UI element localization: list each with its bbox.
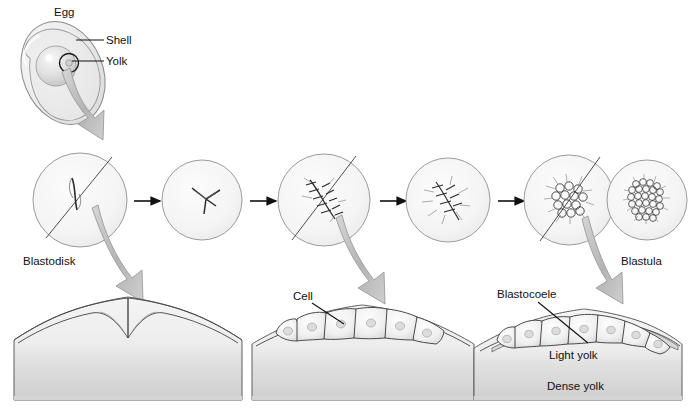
blastodisk-label: Blastodisk xyxy=(23,255,75,267)
stage-circle-5 xyxy=(524,155,614,245)
section-panel-1 xyxy=(14,297,242,400)
stage-circle-1 xyxy=(33,153,127,247)
stage-circle-3 xyxy=(278,154,370,246)
cell-label: Cell xyxy=(293,290,313,302)
section-panel-2 xyxy=(252,303,474,400)
figure-canvas: Egg Shell Yolk Blastodisk Blastula Cell … xyxy=(0,0,691,417)
light-yolk-label: Light yolk xyxy=(549,349,598,361)
dense-yolk-label: Dense yolk xyxy=(547,380,604,392)
stage-circle-4 xyxy=(406,158,490,242)
shell-label: Shell xyxy=(106,34,132,46)
blastocoele-label: Blastocoele xyxy=(497,288,556,300)
blastula-label: Blastula xyxy=(621,255,662,267)
egg-label: Egg xyxy=(54,6,74,18)
stage-circle-6 xyxy=(607,160,687,240)
yolk-label: Yolk xyxy=(106,55,127,67)
cell-row-2 xyxy=(276,308,444,345)
stage-circle-2 xyxy=(162,160,242,240)
